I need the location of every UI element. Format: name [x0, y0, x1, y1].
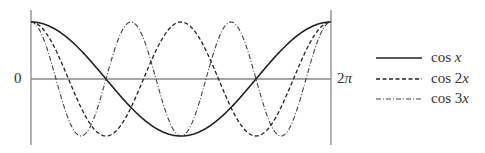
legend-label-cos-2x: cos 2x [431, 70, 469, 87]
chart-plot [0, 0, 485, 153]
x-2pi-label: 2π [337, 70, 352, 87]
legend-label-cos-3x: cos 3x [431, 90, 469, 107]
legend-label-cos-x: cos x [431, 49, 461, 66]
y-zero-label: 0 [14, 70, 22, 87]
